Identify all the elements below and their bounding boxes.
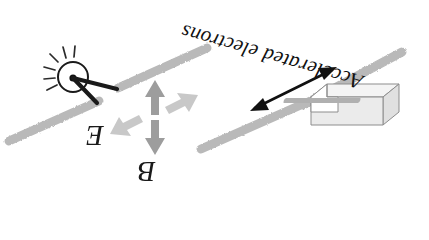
b-field-label: B — [138, 155, 156, 188]
rod-horn-feed — [288, 99, 356, 102]
horn-feed-rod — [288, 99, 356, 102]
spark-ray — [74, 46, 75, 57]
spark-ray — [44, 78, 55, 79]
e-field-label: E — [86, 119, 104, 152]
